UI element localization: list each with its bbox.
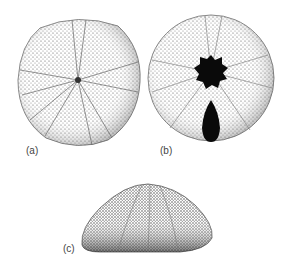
panel-a-aboral-view <box>18 19 140 145</box>
panel-b-label: (b) <box>160 145 172 156</box>
panel-c-label: (c) <box>63 243 75 254</box>
panel-c-lateral-view <box>82 184 212 252</box>
panel-b-oral-view <box>148 15 274 142</box>
sea-urchin-test-drawings: (a) (b) (c) <box>0 0 286 267</box>
panel-a-label: (a) <box>26 145 38 156</box>
